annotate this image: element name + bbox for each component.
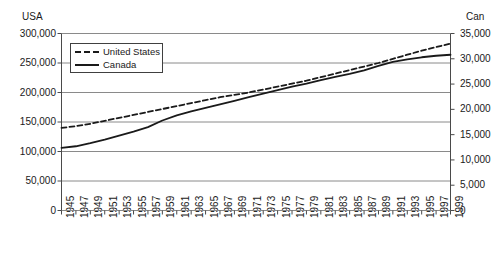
- legend-swatch-dashed-icon: [75, 51, 99, 53]
- legend-swatch-solid-icon: [75, 64, 99, 66]
- legend-label: United States: [103, 46, 160, 58]
- legend-label: Canada: [103, 59, 136, 71]
- legend-item-canada: Canada: [75, 59, 161, 72]
- line-chart: USA Can 300,000250,000200,000150,000100,…: [0, 0, 504, 254]
- chart-legend: United States Canada: [70, 43, 163, 73]
- legend-item-united-states: United States: [75, 46, 161, 59]
- plot-area: [0, 0, 504, 254]
